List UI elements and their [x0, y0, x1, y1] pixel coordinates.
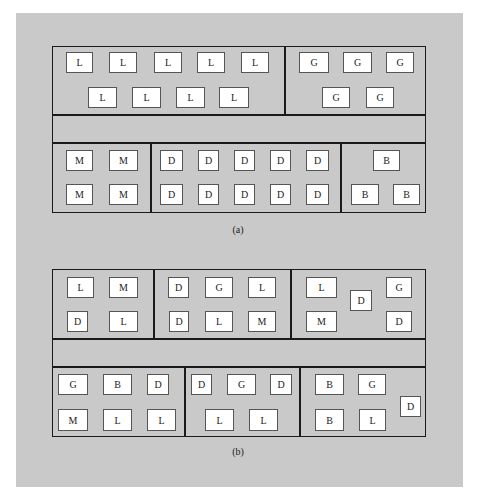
machine-box-l: L	[219, 87, 249, 108]
machine-box-m: M	[248, 311, 276, 332]
machine-box-l: L	[132, 87, 161, 108]
machine-box-g: G	[366, 87, 394, 108]
machine-box-d: D	[306, 184, 329, 205]
machine-box-l: L	[103, 409, 132, 431]
machine-box-l: L	[176, 87, 205, 108]
divider-line	[150, 142, 152, 213]
divider-line	[290, 269, 292, 338]
machine-box-g: G	[58, 374, 88, 395]
machine-box-m: M	[66, 184, 93, 205]
machine-box-d: D	[270, 374, 292, 395]
caption-b: (b)	[232, 446, 244, 457]
machine-box-l: L	[205, 409, 234, 431]
machine-box-l: L	[306, 277, 337, 298]
machine-box-d: D	[168, 277, 189, 298]
machine-box-g: G	[386, 277, 412, 298]
divider-line	[340, 142, 342, 213]
machine-box-b: B	[373, 150, 400, 171]
machine-box-m: M	[109, 184, 138, 205]
machine-box-b: B	[351, 184, 379, 205]
machine-box-d: D	[67, 311, 88, 332]
machine-box-l: L	[88, 87, 117, 108]
machine-box-g: G	[322, 87, 350, 108]
divider-line	[184, 366, 186, 437]
machine-box-b: B	[315, 409, 344, 431]
machine-box-d: D	[270, 184, 291, 205]
machine-box-d: D	[386, 311, 412, 332]
machine-box-m: M	[58, 409, 88, 431]
machine-box-d: D	[147, 374, 169, 395]
divider-line	[52, 114, 426, 116]
machine-box-d: D	[234, 184, 255, 205]
machine-box-l: L	[147, 409, 176, 431]
machine-box-g: G	[386, 52, 414, 73]
machine-box-l: L	[109, 311, 138, 332]
machine-box-l: L	[67, 277, 94, 298]
machine-box-l: L	[205, 311, 233, 332]
machine-box-b: B	[103, 374, 132, 395]
machine-box-d: D	[306, 150, 329, 171]
machine-box-m: M	[306, 311, 337, 332]
divider-line	[52, 366, 426, 368]
machine-box-l: L	[66, 52, 93, 73]
machine-box-d: D	[169, 311, 189, 332]
divider-line	[52, 142, 426, 144]
machine-box-l: L	[241, 52, 269, 73]
machine-box-d: D	[350, 290, 372, 311]
divider-line	[299, 366, 301, 437]
machine-box-g: G	[358, 374, 386, 395]
machine-box-d: D	[400, 396, 421, 417]
machine-box-d: D	[160, 184, 183, 205]
machine-box-l: L	[249, 409, 278, 431]
machine-box-g: G	[227, 374, 256, 395]
divider-line	[153, 269, 155, 338]
machine-box-b: B	[315, 374, 344, 395]
machine-box-m: M	[109, 277, 138, 298]
machine-box-l: L	[248, 277, 276, 298]
machine-box-d: D	[270, 150, 291, 171]
machine-box-m: M	[66, 150, 93, 171]
machine-box-l: L	[197, 52, 225, 73]
machine-box-g: G	[299, 52, 329, 73]
machine-box-g: G	[343, 52, 372, 73]
machine-box-d: D	[234, 150, 255, 171]
divider-line	[284, 46, 286, 114]
machine-box-b: B	[393, 184, 420, 205]
machine-box-g: G	[205, 277, 233, 298]
machine-box-m: M	[109, 150, 138, 171]
machine-box-l: L	[359, 409, 386, 431]
machine-box-d: D	[160, 150, 183, 171]
machine-box-d: D	[191, 374, 212, 395]
machine-box-d: D	[198, 184, 219, 205]
caption-a: (a)	[232, 224, 243, 235]
machine-box-l: L	[109, 52, 137, 73]
divider-line	[52, 338, 426, 340]
machine-box-d: D	[198, 150, 219, 171]
machine-box-l: L	[154, 52, 182, 73]
